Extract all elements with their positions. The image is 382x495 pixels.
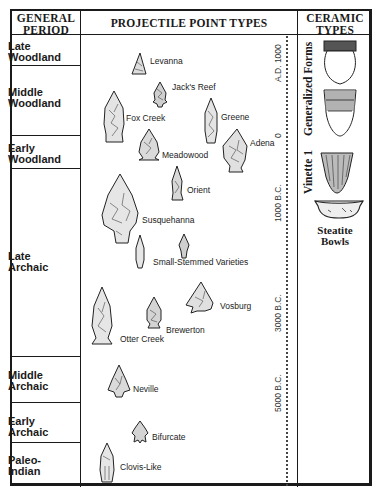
- header-line: TYPES: [298, 24, 372, 36]
- brewerton-point-icon: [144, 296, 164, 330]
- label-levanna: Levanna: [150, 56, 183, 66]
- period-middle-woodland: MiddleWoodland: [8, 87, 61, 109]
- small-stemmed-point-icon-1: [134, 234, 146, 270]
- steatite-bowls-label: Steatite Bowls: [300, 225, 370, 247]
- chronology-table: [10, 9, 372, 486]
- label-vosburg: Vosburg: [220, 301, 251, 311]
- clovis-like-point-icon: [98, 442, 116, 485]
- generalized-jar-icon-1: [322, 40, 358, 86]
- row-divider: [10, 356, 80, 357]
- row-divider: [10, 65, 80, 66]
- vinette-1-label: Vinette 1: [302, 150, 314, 194]
- fox-creek-point-icon: [102, 90, 126, 144]
- greene-point-icon: [203, 97, 219, 145]
- row-divider: [10, 442, 80, 443]
- label-orient: Orient: [187, 185, 210, 195]
- meadowood-point-icon: [137, 128, 161, 162]
- timeline-dotted-line: [286, 36, 288, 486]
- label-adena: Adena: [250, 138, 275, 148]
- period-column-divider: [80, 9, 81, 487]
- jacks-reef-point-icon: [152, 81, 168, 108]
- vinette-1-vessel-icon: [320, 151, 354, 195]
- label-otter-creek: Otter Creek: [120, 334, 164, 344]
- label-meadowood: Meadowood: [162, 150, 208, 160]
- period-early-archaic: EarlyArchaic: [8, 416, 48, 438]
- label-susquehanna: Susquehanna: [142, 215, 194, 225]
- steatite-bowl-icon: [314, 198, 364, 220]
- otter-creek-point-icon: [90, 286, 114, 346]
- general-period-header: GENERAL PERIOD: [12, 12, 80, 36]
- label-neville: Neville: [133, 384, 159, 394]
- label-jacks-reef: Jack's Reef: [172, 82, 216, 92]
- label-brewerton: Brewerton: [166, 325, 205, 335]
- time-ad1000: A.D. 1000: [273, 44, 283, 82]
- adena-point-icon: [221, 128, 249, 174]
- levanna-point-icon: [131, 52, 147, 76]
- row-divider: [10, 135, 80, 136]
- label-greene: Greene: [221, 112, 249, 122]
- row-divider: [10, 168, 80, 169]
- orient-point-icon: [170, 165, 184, 203]
- time-1000bc: 1000 B.C.: [273, 184, 283, 222]
- header-line: PERIOD: [12, 24, 80, 36]
- header-line: CERAMIC: [298, 12, 372, 24]
- label-small-stemmed-varieties: Small-Stemmed Varieties: [153, 257, 248, 267]
- period-paleo-indian: Paleo-Indian: [8, 455, 41, 477]
- period-early-woodland: EarlyWoodland: [8, 143, 61, 165]
- projectile-point-types-header: PROJECTILE POINT TYPES: [81, 17, 297, 29]
- period-late-woodland: LateWoodland: [8, 41, 61, 63]
- generalized-jar-icon-2: [322, 88, 358, 138]
- label-fox-creek: Fox Creek: [126, 113, 165, 123]
- vosburg-point-icon: [183, 281, 215, 315]
- label-bifurcate: Bifurcate: [152, 432, 186, 442]
- period-middle-archaic: MiddleArchaic: [8, 370, 48, 392]
- ceramic-types-header: CERAMIC TYPES: [298, 12, 372, 36]
- small-stemmed-point-icon-2: [178, 233, 190, 259]
- time-5000bc: 5000 B.C.: [273, 374, 283, 412]
- steatite-line: Bowls: [300, 236, 370, 247]
- row-divider: [10, 402, 80, 403]
- bifurcate-point-icon: [131, 420, 149, 444]
- ceramic-column-divider: [297, 9, 298, 487]
- neville-point-icon: [106, 364, 132, 398]
- time-3000bc: 3000 B.C.: [273, 294, 283, 332]
- header-line: GENERAL: [12, 12, 80, 24]
- generalized-forms-label: Generalized Forms: [302, 42, 314, 136]
- label-clovis-like: Clovis-Like: [120, 462, 162, 472]
- period-late-archaic: LateArchaic: [8, 251, 48, 273]
